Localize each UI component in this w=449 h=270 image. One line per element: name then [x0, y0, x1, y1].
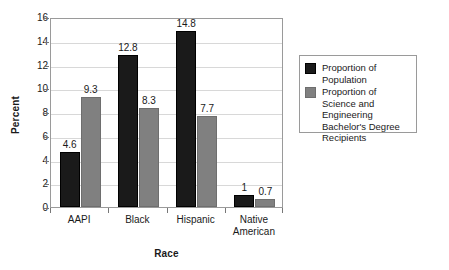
bar — [234, 195, 254, 207]
bar — [81, 97, 101, 207]
bar-value-label: 7.7 — [190, 103, 224, 114]
bar-value-label: 0.7 — [248, 186, 282, 197]
legend-label: Proportion of Population — [322, 62, 412, 85]
bar-group: 14.87.7 — [168, 19, 226, 207]
y-tick-mark — [44, 161, 49, 162]
x-tick-mark — [50, 208, 51, 213]
plot-area: 4.69.312.88.314.87.710.7 — [50, 18, 283, 208]
x-tick-label-line: American — [225, 226, 283, 238]
x-tick-mark — [282, 208, 283, 213]
y-tick-mark — [44, 42, 49, 43]
y-tick-mark — [44, 184, 49, 185]
bar — [176, 31, 196, 207]
legend-label: Proportion of Science and Engineering Ba… — [322, 86, 412, 144]
x-tick-label: NativeAmerican — [225, 214, 283, 238]
x-tick-mark — [225, 208, 226, 213]
x-tick-mark — [167, 208, 168, 213]
bar-value-label: 9.3 — [74, 84, 108, 95]
legend-item: Proportion of Population — [305, 62, 412, 85]
bar-groups: 4.69.312.88.314.87.710.7 — [51, 19, 282, 207]
bar — [197, 116, 217, 207]
legend-item: Proportion of Science and Engineering Ba… — [305, 86, 412, 144]
bar-chart-figure: Percent 1614121086420 4.69.312.88.314.87… — [0, 0, 449, 270]
bar-value-label: 12.8 — [111, 42, 145, 53]
bar-value-label: 8.3 — [132, 95, 166, 106]
bar-group: 12.88.3 — [109, 19, 167, 207]
bar — [255, 199, 275, 207]
legend-swatch-icon — [305, 63, 316, 74]
y-tick-mark — [44, 18, 49, 19]
y-tick-mark — [44, 66, 49, 67]
bar — [118, 55, 138, 207]
bar — [139, 108, 159, 207]
x-tick-label-line: AAPI — [50, 214, 108, 226]
x-tick-label: Black — [108, 214, 166, 226]
x-tick-mark — [108, 208, 109, 213]
chart-legend: Proportion of PopulationProportion of Sc… — [299, 55, 417, 133]
x-tick-label-line: Hispanic — [167, 214, 225, 226]
y-axis-title: Percent — [10, 0, 24, 230]
y-tick-mark — [44, 89, 49, 90]
y-tick-mark — [44, 113, 49, 114]
bar — [60, 152, 80, 207]
y-tick-mark — [44, 208, 49, 209]
x-tick-label: AAPI — [50, 214, 108, 226]
bar-group: 4.69.3 — [51, 19, 109, 207]
x-tick-label-line: Native — [225, 214, 283, 226]
x-tick-label: Hispanic — [167, 214, 225, 226]
x-axis-title: Race — [50, 248, 283, 259]
x-axis-tick-labels: AAPIBlackHispanicNativeAmerican — [50, 214, 283, 250]
x-tick-label-line: Black — [108, 214, 166, 226]
bar-group: 10.7 — [226, 19, 284, 207]
legend-swatch-icon — [305, 87, 316, 98]
bar-value-label: 14.8 — [169, 18, 203, 29]
y-tick-mark — [44, 137, 49, 138]
